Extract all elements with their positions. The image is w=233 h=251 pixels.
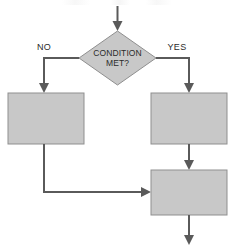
decision-label-line2: MET?: [106, 58, 129, 68]
exit-arrowhead: [184, 235, 194, 245]
exit-arrow: [184, 215, 194, 245]
process-box-no-branch[interactable]: [8, 93, 84, 144]
entry-arrowhead: [113, 21, 123, 31]
process-box-no-branch-shape: [8, 93, 84, 144]
entry-arrow: [113, 6, 123, 31]
process-box-merge-shape: [151, 170, 227, 215]
decision-label-line1: CONDITION: [93, 48, 142, 58]
merge-left-arrowhead: [141, 187, 151, 197]
yes-branch-arrowhead: [184, 83, 194, 93]
process-box-yes-branch-shape: [151, 93, 227, 144]
flowchart-svg: CONDITION MET? NO YES: [0, 0, 233, 251]
edge-label-no: NO: [37, 42, 51, 52]
no-branch-arrowhead: [39, 83, 49, 93]
edge-no-to-merge: [44, 144, 151, 197]
process-box-merge[interactable]: [151, 170, 227, 215]
edge-yes-branch: [156, 58, 194, 93]
edge-label-yes: YES: [168, 42, 187, 52]
edge-no-branch: [39, 58, 79, 93]
flowchart-canvas: CONDITION MET? NO YES: [0, 0, 233, 251]
merge-top-arrowhead: [184, 160, 194, 170]
process-box-yes-branch[interactable]: [151, 93, 227, 144]
decision-node-condition-met[interactable]: CONDITION MET?: [79, 31, 156, 85]
edge-yes-to-merge: [184, 144, 194, 170]
